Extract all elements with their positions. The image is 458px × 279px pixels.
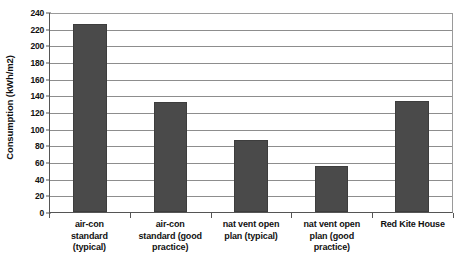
x-axis-ticks [49,213,453,218]
x-axis-tick-mark [49,213,50,218]
y-axis-tick-label: 100 [30,125,44,135]
bar-slot [130,13,210,212]
y-axis-tick-label: 140 [30,91,44,101]
bar [234,140,268,212]
y-axis-tick-label: 240 [30,8,44,18]
x-axis-tick-mark [453,213,454,218]
bar-chart: Consumption (kWh/m2) 2402202001801601401… [0,0,458,279]
x-axis-category-label-line: practice) [292,242,371,254]
x-axis-category-label-line: air-con [131,219,210,231]
bar [154,102,188,212]
x-axis-category-label-line: practice) [131,242,210,254]
y-axis-tick-labels: 240220200180160140120100806040200 [18,13,46,213]
y-axis-tick-label: 220 [30,25,44,35]
bar-slot [211,13,291,212]
x-axis-category-label: air-constandard (goodpractice) [130,219,211,277]
y-axis-tick-label: 80 [35,141,44,151]
x-axis-category-label-line: standard [50,231,129,243]
x-axis-category-label: Red Kite House [372,219,453,277]
x-axis-tick-mark [211,213,212,218]
x-axis-tick-mark [291,213,292,218]
y-axis-tick-label: 160 [30,75,44,85]
bar-slot [50,13,130,212]
x-axis-category-label-line: standard (good [131,231,210,243]
x-axis-category-label-line: nat vent open [212,219,291,231]
bar-slot [291,13,371,212]
x-axis-tick-mark [372,213,373,218]
x-axis-tick-mark [130,213,131,218]
y-axis-tick-label: 40 [35,175,44,185]
y-axis-tick-label: 0 [39,208,44,218]
plot-area [49,13,453,213]
x-axis-category-label: nat vent openplan (goodpractice) [291,219,372,277]
bars-layer [50,13,452,212]
x-axis-category-labels: air-constandard(typical)air-constandard … [49,219,453,277]
x-axis-category-label-line: air-con [50,219,129,231]
x-axis-category-label: air-constandard(typical) [49,219,130,277]
x-axis-category-label-line: Red Kite House [373,219,452,231]
bar-slot [372,13,452,212]
x-axis-category-label-line: nat vent open [292,219,371,231]
x-axis-category-label-line: plan (typical) [212,231,291,243]
x-axis-category-label: nat vent openplan (typical) [211,219,292,277]
x-axis-category-label-line: (typical) [50,242,129,254]
bar [395,101,429,212]
y-axis-tick-label: 20 [35,191,44,201]
x-axis-category-label-line: plan (good [292,231,371,243]
y-axis-title: Consumption (kWh/m2) [0,0,18,215]
y-axis-tick-label: 60 [35,158,44,168]
bar [315,166,349,212]
bar [73,24,107,212]
y-axis-tick-label: 120 [30,108,44,118]
y-axis-tick-label: 180 [30,58,44,68]
y-axis-tick-label: 200 [30,41,44,51]
y-axis-title-text: Consumption (kWh/m2) [4,55,15,160]
